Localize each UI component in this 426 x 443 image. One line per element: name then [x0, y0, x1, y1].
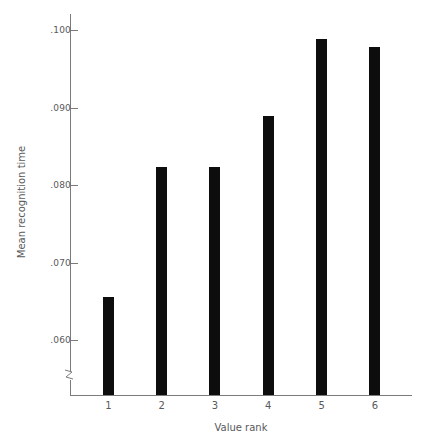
axis-break-icon	[63, 368, 79, 382]
y-tick-label: .090	[27, 104, 71, 113]
x-tick-label: 6	[360, 400, 390, 412]
x-axis-title: Value rank	[70, 422, 412, 434]
bar	[103, 297, 114, 395]
axis-break-svg	[63, 369, 79, 383]
y-tick-mark	[71, 263, 78, 264]
x-axis-line	[70, 395, 412, 396]
y-tick-mark	[71, 340, 78, 341]
y-tick-label-wrap: .080	[0, 181, 71, 190]
y-tick-label-wrap: .090	[0, 104, 71, 113]
y-tick-label-wrap: .070	[0, 259, 71, 268]
x-tick-label: 2	[147, 400, 177, 412]
bar	[156, 167, 167, 395]
x-tick-label: 1	[93, 400, 123, 412]
y-axis-line	[70, 14, 71, 372]
bar	[316, 39, 327, 395]
y-tick-label: .080	[27, 181, 71, 190]
bar	[209, 167, 220, 395]
bar	[263, 116, 274, 395]
y-tick-label-wrap: .060	[0, 336, 71, 345]
bar-chart-figure: .060.070.080.090.100 123456 Value rank M…	[0, 0, 426, 443]
y-tick-mark	[71, 108, 78, 109]
y-tick-mark	[71, 185, 78, 186]
y-tick-label: .070	[27, 259, 71, 268]
y-tick-label: .100	[27, 26, 71, 35]
bar	[369, 47, 380, 395]
x-tick-label: 5	[307, 400, 337, 412]
y-tick-label-wrap: .100	[0, 26, 71, 35]
y-tick-mark	[71, 30, 78, 31]
x-tick-label: 3	[200, 400, 230, 412]
y-axis-title: Mean recognition time	[16, 102, 28, 302]
y-tick-label: .060	[27, 336, 71, 345]
x-tick-label: 4	[253, 400, 283, 412]
